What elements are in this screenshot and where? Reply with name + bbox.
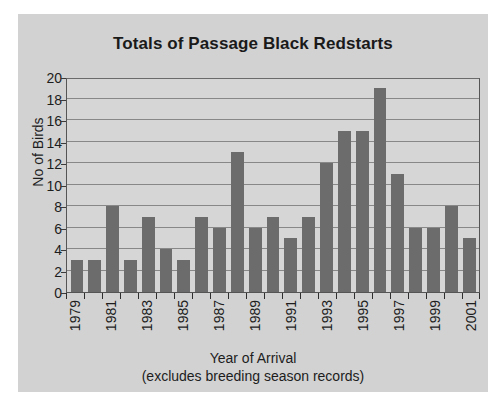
x-tick-slot <box>372 293 390 300</box>
y-tick-label: 18 <box>32 93 62 107</box>
bar[interactable] <box>213 228 226 293</box>
bar[interactable] <box>267 217 280 292</box>
x-tick-slot <box>120 293 138 300</box>
x-tick-slot <box>264 293 282 300</box>
x-tick-label: 1979 <box>68 300 82 331</box>
x-axis-ticks <box>66 293 480 300</box>
x-tick-slot <box>156 293 174 300</box>
bar[interactable] <box>320 163 333 292</box>
bar-slot <box>175 79 193 292</box>
x-tick-slot <box>390 293 408 300</box>
x-tick-mark <box>444 293 445 299</box>
chart-title: Totals of Passage Black Redstarts <box>18 34 488 54</box>
bar-slot <box>139 79 157 292</box>
plot-area <box>66 78 480 293</box>
x-tick-mark <box>390 293 391 299</box>
x-tick-slot <box>66 293 84 300</box>
bar-slot <box>211 79 229 292</box>
bar[interactable] <box>231 152 244 292</box>
x-tick-mark <box>246 293 247 299</box>
x-tick-label: 1987 <box>212 300 226 331</box>
x-tick-label: 1997 <box>392 300 406 331</box>
bar-slot <box>442 79 460 292</box>
x-tick-slot <box>210 293 228 300</box>
x-tick-mark <box>372 293 373 299</box>
bar-slot <box>389 79 407 292</box>
y-tick-label: 12 <box>32 157 62 171</box>
x-tick-slot <box>408 293 426 300</box>
x-tick-slot <box>192 293 210 300</box>
x-tick-mark <box>192 293 193 299</box>
x-tick-slot <box>426 293 444 300</box>
bar-slot <box>407 79 425 292</box>
bar[interactable] <box>338 131 351 292</box>
x-tick-slot <box>102 293 120 300</box>
y-tick-label: 14 <box>32 136 62 150</box>
bar-slot <box>371 79 389 292</box>
bar[interactable] <box>160 249 173 292</box>
bar-slot <box>264 79 282 292</box>
bar-slot <box>246 79 264 292</box>
x-tick-label: 1981 <box>104 300 118 331</box>
x-tick-mark <box>462 293 463 299</box>
bar[interactable] <box>374 88 387 292</box>
bar-series <box>67 79 479 292</box>
chart-figure: Totals of Passage Black Redstarts No of … <box>18 14 488 392</box>
x-tick-slot <box>246 293 264 300</box>
y-tick-label: 8 <box>32 200 62 214</box>
bar-slot <box>353 79 371 292</box>
x-tick-label: 1989 <box>248 300 262 331</box>
bar[interactable] <box>106 206 119 292</box>
bar-slot <box>228 79 246 292</box>
y-tick-label: 4 <box>32 243 62 257</box>
x-tick-mark <box>264 293 265 299</box>
x-tick-mark <box>120 293 121 299</box>
x-tick-slot <box>282 293 300 300</box>
bar[interactable] <box>356 131 369 292</box>
bar[interactable] <box>249 228 262 293</box>
x-tick-slot <box>300 293 318 300</box>
x-tick-mark <box>408 293 409 299</box>
bar[interactable] <box>124 260 137 292</box>
bar[interactable] <box>195 217 208 292</box>
bar[interactable] <box>445 206 458 292</box>
bar[interactable] <box>177 260 190 292</box>
x-tick-mark <box>84 293 85 299</box>
x-axis-title: Year of Arrival <box>18 350 488 366</box>
x-tick-mark <box>300 293 301 299</box>
bar[interactable] <box>409 228 422 293</box>
x-tick-mark <box>354 293 355 299</box>
x-tick-slot <box>228 293 246 300</box>
bar[interactable] <box>463 238 476 292</box>
x-tick-slot <box>354 293 372 300</box>
y-tick-label: 6 <box>32 222 62 236</box>
x-tick-mark <box>426 293 427 299</box>
bar-slot <box>157 79 175 292</box>
bar[interactable] <box>88 260 101 292</box>
bar[interactable] <box>302 217 315 292</box>
bar-slot <box>335 79 353 292</box>
x-tick-label: 1983 <box>140 300 154 331</box>
x-tick-mark <box>102 293 103 299</box>
y-tick-label: 2 <box>32 265 62 279</box>
bar[interactable] <box>71 260 84 292</box>
y-tick-label: 20 <box>32 71 62 85</box>
x-tick-label: 2001 <box>464 300 478 331</box>
bar-slot <box>104 79 122 292</box>
bar-slot <box>193 79 211 292</box>
bar[interactable] <box>284 238 297 292</box>
x-tick-mark <box>318 293 319 299</box>
bar-slot <box>318 79 336 292</box>
y-tick-label: 0 <box>32 286 62 300</box>
x-tick-mark <box>282 293 283 299</box>
bar[interactable] <box>391 174 404 292</box>
bar[interactable] <box>427 228 440 293</box>
x-tick-mark <box>66 293 67 299</box>
bar[interactable] <box>142 217 155 292</box>
x-tick-label: 1993 <box>320 300 334 331</box>
y-tick-label: 16 <box>32 114 62 128</box>
x-tick-slot <box>336 293 354 300</box>
x-tick-slot <box>174 293 192 300</box>
x-tick-slot <box>84 293 102 300</box>
bar-slot <box>121 79 139 292</box>
